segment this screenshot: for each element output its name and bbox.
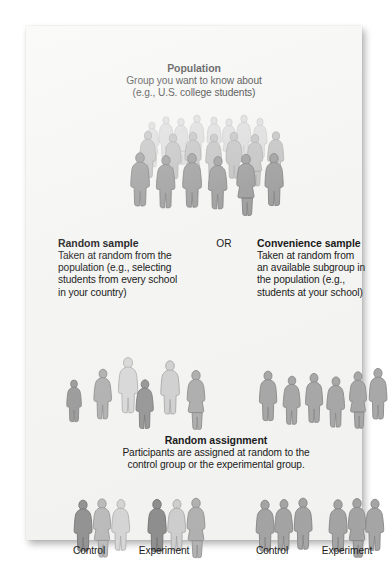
assignment-group-control-right [252,470,318,542]
population-line-1: Group you want to know about [52,75,336,87]
random-sample-line-3: students from every school [58,274,208,286]
population-heading: Population [52,62,336,75]
random-assignment-header: Random assignment Participants are assig… [66,434,366,471]
caption-experiment-left: Experiment [126,545,202,556]
convenience-sample-line-2: an available subgroup in [257,262,385,274]
random-assignment-heading: Random assignment [66,434,366,447]
caption-control-right: Control [242,545,302,556]
random-assignment-line-1: Participants are assigned at random to t… [66,447,366,459]
random-sample-block: Random sample Taken at random from the p… [58,237,208,299]
caption-control-left: Control [59,545,119,556]
convenience-sample-line-4: students at your school) [257,287,385,299]
figure-card: Population Group you want to know about … [26,26,362,540]
population-header: Population Group you want to know about … [52,62,336,99]
convenience-sample-heading: Convenience sample [257,237,385,250]
or-label: OR [202,238,246,249]
random-sample-heading: Random sample [58,237,208,250]
random-sample-line-4: in your country) [58,287,208,299]
population-line-2: (e.g., U.S. college students) [52,87,336,99]
assignment-group-experiment-left [144,470,210,542]
caption-experiment-right: Experiment [309,545,385,556]
random-sample-line-2: population (e.g., selecting [58,262,208,274]
figure-page: Population Group you want to know about … [0,0,391,561]
convenience-sample-line-3: the population (e.g., [257,274,385,286]
population-crowd [126,102,306,218]
convenience-sample-block: Convenience sample Taken at random from … [257,237,385,299]
assignment-group-experiment-right [326,470,386,542]
assignment-group-control-left [70,470,136,542]
random-sample-people [60,318,210,424]
convenience-sample-line-1: Taken at random from [257,250,385,262]
convenience-sample-people [254,318,386,424]
random-sample-line-1: Taken at random from the [58,250,208,262]
